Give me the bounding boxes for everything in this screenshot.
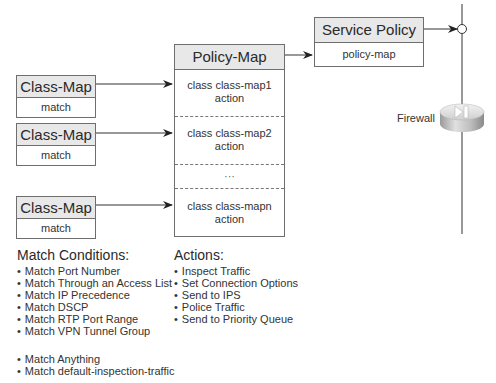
interface-point-icon [458,25,467,34]
match-condition-item: Match default-inspection-traffic [17,365,174,377]
class-map-title: Class-Map [17,197,95,219]
ellipsis: ··· [175,170,284,183]
class-map-match: match [17,98,95,117]
actions-title: Actions: [174,247,224,263]
class-action: action [175,92,284,105]
service-policy-title: Service Policy [315,18,423,43]
match-conditions-extra-list: Match Anything Match default-inspection-… [17,353,174,377]
match-conditions-list: Match Port Number Match Through an Acces… [17,265,172,337]
match-conditions-title: Match Conditions: [17,247,129,263]
service-policy-box: Service Policy policy-map [314,17,424,67]
class-action: action [175,140,284,153]
action-item: Police Traffic [174,301,298,313]
policy-map-section-n: class class-mapn action [175,200,284,226]
class-map-box-1: Class-Map match [16,75,96,118]
match-condition-item: Match DSCP [17,301,172,313]
match-condition-item: Match IP Precedence [17,289,172,301]
firewall-icon [440,104,484,132]
action-item: Inspect Traffic [174,265,298,277]
policy-map-section-1: class class-map1 action [175,79,284,105]
action-item: Set Connection Options [174,277,298,289]
match-condition-item: Match Through an Access List [17,277,172,289]
class-map-box-2: Class-Map match [16,123,96,166]
policy-map-box: Policy-Map class class-map1 action class… [174,44,285,237]
actions-list: Inspect Traffic Set Connection Options S… [174,265,298,325]
match-condition-item: Match Anything [17,353,174,365]
class-map-box-n: Class-Map match [16,196,96,239]
match-condition-item: Match Port Number [17,265,172,277]
class-reference: class class-map2 [175,127,284,140]
policy-map-section-2: class class-map2 action [175,127,284,153]
class-reference: class class-mapn [175,200,284,213]
match-condition-item: Match RTP Port Range [17,313,172,325]
service-policy-body: policy-map [315,43,423,66]
section-divider [175,164,284,165]
class-action: action [175,213,284,226]
action-item: Send to Priority Queue [174,313,298,325]
policy-map-title: Policy-Map [175,45,284,70]
section-divider [175,116,284,117]
class-map-match: match [17,146,95,165]
action-item: Send to IPS [174,289,298,301]
class-map-match: match [17,219,95,238]
firewall-label: Firewall [397,112,435,124]
section-divider [175,188,284,189]
match-condition-item: Match VPN Tunnel Group [17,325,172,337]
class-map-title: Class-Map [17,76,95,98]
class-reference: class class-map1 [175,79,284,92]
policy-map-ellipsis: ··· [175,170,284,183]
class-map-title: Class-Map [17,124,95,146]
